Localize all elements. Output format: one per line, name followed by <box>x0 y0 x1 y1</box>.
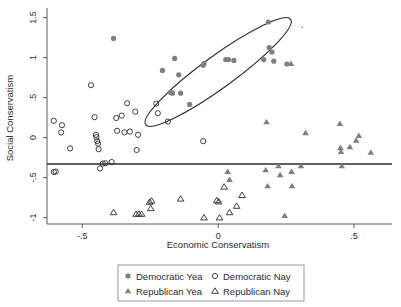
legend-marker-icon <box>125 273 130 278</box>
data-point <box>261 57 266 62</box>
scatter-plot-canvas: -1-.50.511.5-.50.5 Economic Conservatism… <box>0 0 401 307</box>
legend-item[interactable]: Democratic Nay <box>212 271 290 282</box>
data-point <box>178 91 183 96</box>
legend-item-label: Democratic Nay <box>223 271 291 282</box>
y-axis-title: Social Conservatism <box>4 75 15 162</box>
data-point <box>170 91 175 96</box>
scatter-plot-figure: -1-.50.511.5-.50.5 Economic Conservatism… <box>0 0 401 307</box>
x-axis-title: Economic Conservatism <box>167 239 270 250</box>
data-point <box>187 102 192 107</box>
data-point <box>111 36 116 41</box>
x-tick-label: .5 <box>350 231 358 241</box>
data-point <box>160 68 165 73</box>
legend-item[interactable]: Republican Yea <box>125 286 203 297</box>
y-tick-label: 1.5 <box>28 11 38 24</box>
data-point <box>271 59 276 64</box>
legend: Democratic YeaDemocratic NayRepublican Y… <box>118 265 304 301</box>
legend-item[interactable]: Democratic Yea <box>125 271 203 282</box>
data-point <box>176 72 181 77</box>
data-point <box>269 49 274 54</box>
stray-dot <box>301 26 303 28</box>
y-tick-label: .5 <box>28 94 38 102</box>
legend-item-label: Democratic Yea <box>136 271 203 282</box>
y-tick-label: 0 <box>28 135 38 140</box>
legend-item-label: Republican Yea <box>136 286 203 297</box>
data-point <box>267 45 272 50</box>
legend-item[interactable]: Republican Nay <box>212 286 291 297</box>
data-point <box>226 57 231 62</box>
data-point <box>172 56 177 61</box>
y-tick-label: -1 <box>28 214 38 222</box>
x-tick-label: -.5 <box>77 231 88 241</box>
y-tick-label: -.5 <box>28 172 38 183</box>
data-point <box>266 19 271 24</box>
legend-item-label: Republican Nay <box>223 286 290 297</box>
y-tick-label: 1 <box>28 55 38 60</box>
data-point <box>231 58 236 63</box>
data-point <box>201 61 206 66</box>
